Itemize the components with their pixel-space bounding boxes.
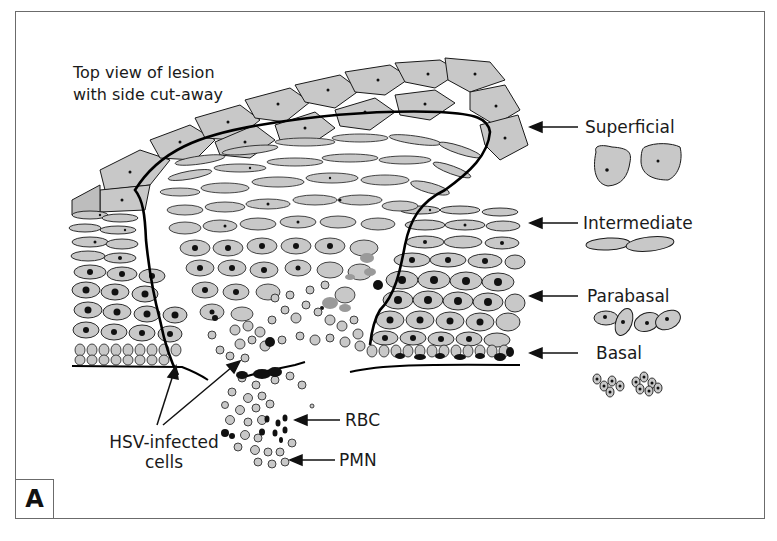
panel-label: A (25, 485, 44, 513)
label-intermediate: Intermediate (583, 213, 693, 233)
caption-line-2: with side cut-away (73, 84, 223, 106)
tissue-block (69, 58, 528, 380)
panel-label-box: A (15, 479, 54, 519)
legend-basal-cells (593, 372, 662, 397)
legend-parabasal-cells (594, 306, 684, 338)
label-parabasal: Parabasal (587, 286, 670, 306)
label-basal: Basal (596, 343, 642, 363)
left-side-layers (69, 211, 187, 342)
label-superficial: Superficial (585, 117, 675, 137)
label-pmn: PMN (339, 450, 377, 470)
diagram-canvas: Top view of lesion with side cut-away Su… (0, 0, 777, 541)
label-hsv-line-2: cells (99, 452, 229, 472)
left-basal-cells (75, 344, 181, 365)
caption-line-1: Top view of lesion (73, 62, 223, 84)
caption: Top view of lesion with side cut-away (73, 62, 223, 106)
label-hsv-infected: HSV-infected cells (99, 432, 229, 472)
basement-membrane-right (350, 365, 520, 372)
label-hsv-line-1: HSV-infected (99, 432, 229, 452)
basement-membrane-left (72, 366, 208, 380)
legend-intermediate-cells (586, 235, 675, 254)
right-side-layers (372, 206, 525, 347)
legend-superficial-cells (595, 144, 682, 186)
label-rbc: RBC (345, 410, 380, 430)
